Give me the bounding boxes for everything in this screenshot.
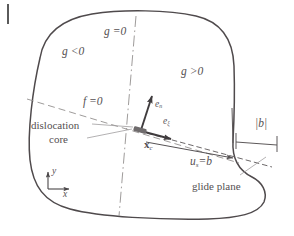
label-e-xi-subscript: ξ	[167, 120, 170, 126]
label-axis-y: y	[52, 167, 56, 177]
label-x-c-subscript: c	[150, 144, 153, 151]
glide-plane-leader-line	[240, 157, 266, 175]
label-g-zero: g =0	[104, 26, 126, 38]
label-axis-x: x	[63, 190, 67, 200]
unit-normal-arrow	[141, 96, 152, 130]
label-x-c: xc	[144, 139, 153, 152]
label-glide-plane: glide plane	[192, 181, 241, 192]
label-dislocation-core-line1: dislocation	[31, 120, 79, 131]
burgers-bracket-drop-line	[232, 108, 233, 143]
dislocation-core-marker	[133, 126, 147, 134]
label-g-negative: g <0	[62, 46, 84, 58]
level-set-g-zero-line	[119, 16, 136, 216]
label-g-positive: g >0	[181, 66, 203, 78]
burgers-magnitude-bracket	[236, 133, 277, 152]
label-e-xi: eξ	[163, 117, 170, 127]
label-f-zero: f =0	[83, 96, 103, 108]
diagram-canvas	[0, 0, 294, 236]
label-e-n: en	[155, 100, 162, 110]
label-u-equals-b: =b	[199, 155, 213, 167]
label-e-n-subscript: n	[159, 103, 162, 109]
figure-dislocation-diagram: g <0 g =0 g >0 f =0 dislocation core en …	[0, 0, 294, 236]
core-leader-line-lower	[87, 129, 132, 138]
label-slip-displacement: us=b	[190, 156, 212, 169]
label-dislocation-core-line2: core	[49, 134, 68, 145]
label-burgers-magnitude: |b|	[255, 118, 267, 130]
